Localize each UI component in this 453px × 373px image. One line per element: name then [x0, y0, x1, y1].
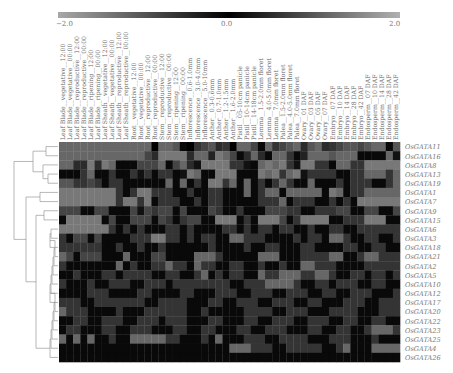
heatmap-cell	[201, 270, 208, 279]
heatmap-cell	[279, 243, 286, 252]
heatmap-cell	[301, 261, 308, 270]
heatmap-cell	[173, 160, 180, 169]
heatmap-cell	[230, 197, 237, 206]
heatmap-cell	[173, 206, 180, 215]
heatmap-cell	[109, 170, 116, 179]
heatmap-cell	[215, 142, 222, 151]
heatmap-cell	[166, 151, 173, 160]
heatmap-cell	[364, 234, 371, 243]
heatmap-cell	[151, 289, 158, 298]
heatmap-cell	[116, 298, 123, 307]
heatmap-cell	[329, 151, 336, 160]
heatmap-cell	[109, 270, 116, 279]
heatmap-cell	[187, 179, 194, 188]
heatmap-cell	[166, 307, 173, 316]
heatmap-cell	[80, 243, 87, 252]
heatmap-cell	[194, 353, 201, 362]
heatmap-cell	[237, 325, 244, 334]
heatmap-cell	[258, 353, 265, 362]
heatmap-cell	[144, 252, 151, 261]
heatmap-cell	[301, 316, 308, 325]
heatmap-cell	[95, 335, 102, 344]
heatmap-cell	[194, 151, 201, 160]
heatmap-cell	[151, 270, 158, 279]
heatmap-cell	[272, 151, 279, 160]
heatmap-cell	[166, 344, 173, 353]
heatmap-cell	[279, 289, 286, 298]
heatmap-cell	[301, 160, 308, 169]
heatmap-cell	[73, 252, 80, 261]
heatmap-cell	[322, 215, 329, 224]
heatmap-cell	[301, 335, 308, 344]
heatmap-cell	[194, 252, 201, 261]
heatmap-cell	[265, 179, 272, 188]
heatmap-cell	[336, 179, 343, 188]
heatmap-cell	[151, 188, 158, 197]
heatmap-cell	[336, 252, 343, 261]
heatmap-cell	[230, 151, 237, 160]
heatmap-cell	[272, 344, 279, 353]
heatmap-cell	[244, 289, 251, 298]
heatmap-cell	[95, 325, 102, 334]
heatmap-cell	[251, 270, 258, 279]
heatmap-cell	[194, 316, 201, 325]
heatmap-cell	[230, 142, 237, 151]
heatmap-cell	[265, 252, 272, 261]
heatmap-cell	[180, 353, 187, 362]
heatmap-cell	[87, 243, 94, 252]
heatmap-cell	[293, 261, 300, 270]
heatmap-cell	[308, 234, 315, 243]
heatmap-cell	[59, 243, 66, 252]
heatmap-cell	[293, 344, 300, 353]
heatmap-cell	[279, 353, 286, 362]
heatmap-cell	[158, 160, 165, 169]
heatmap-cell	[73, 197, 80, 206]
heatmap-cell	[180, 280, 187, 289]
heatmap-cell	[237, 188, 244, 197]
heatmap-cell	[230, 325, 237, 334]
heatmap-cell	[272, 335, 279, 344]
heatmap-cell	[180, 243, 187, 252]
heatmap-cell	[194, 142, 201, 151]
heatmap-cell	[215, 243, 222, 252]
heatmap-cell	[272, 307, 279, 316]
heatmap-cell	[166, 197, 173, 206]
heatmap-cell	[87, 289, 94, 298]
heatmap-cell	[272, 225, 279, 234]
heatmap-cell	[158, 215, 165, 224]
heatmap-cell	[379, 280, 386, 289]
heatmap-cell	[158, 206, 165, 215]
heatmap-cell	[123, 252, 130, 261]
heatmap-cell	[201, 289, 208, 298]
heatmap-cell	[350, 289, 357, 298]
heatmap-cell	[109, 243, 116, 252]
heatmap-cell	[116, 225, 123, 234]
heatmap-cell	[222, 151, 229, 160]
heatmap-cell	[286, 151, 293, 160]
heatmap-cell	[123, 225, 130, 234]
heatmap-cell	[180, 289, 187, 298]
heatmap-cell	[357, 325, 364, 334]
heatmap-cell	[201, 261, 208, 270]
heatmap-cell	[357, 316, 364, 325]
heatmap-cell	[187, 261, 194, 270]
heatmap-cell	[194, 160, 201, 169]
heatmap-cell	[265, 151, 272, 160]
heatmap-cell	[130, 243, 137, 252]
heatmap-cell	[379, 316, 386, 325]
heatmap-cell	[194, 243, 201, 252]
heatmap-cell	[286, 261, 293, 270]
heatmap-cell	[73, 335, 80, 344]
heatmap-cell	[173, 142, 180, 151]
heatmap-cell	[123, 179, 130, 188]
heatmap-cell	[329, 225, 336, 234]
heatmap-cell	[244, 142, 251, 151]
heatmap-cell	[95, 170, 102, 179]
heatmap-cell	[379, 298, 386, 307]
heatmap-cell	[237, 298, 244, 307]
heatmap-cell	[95, 179, 102, 188]
heatmap-cell	[59, 142, 66, 151]
heatmap-cell	[95, 316, 102, 325]
heatmap-cell	[315, 160, 322, 169]
heatmap-cell	[102, 280, 109, 289]
